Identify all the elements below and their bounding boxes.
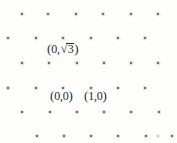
lattice-dot [130,62,132,64]
radical-vinculum [66,43,74,44]
lattice-dot [157,135,159,137]
lattice-dot [76,111,78,113]
lattice-dot [48,62,50,64]
lattice-dot [102,13,104,15]
lattice-dot [130,13,132,15]
lattice-dot [171,135,173,137]
lattice-dot [117,135,119,137]
lattice-dot [144,37,146,39]
label-close-paren: ) [74,41,78,56]
point-label-0-sqrt3: (0,√3) [47,42,79,55]
lattice-dot [144,87,146,89]
lattice-dot [35,87,37,89]
lattice-dot [158,111,160,113]
lattice-dot [157,13,159,15]
lattice-dot [117,87,119,89]
lattice-dot [7,37,9,39]
point-label-origin: (0,0) [50,89,73,102]
lattice-dot [21,62,23,64]
lattice-dot-layer [0,0,177,143]
lattice-dot [90,135,92,137]
lattice-dot [62,37,64,39]
lattice-dot [21,13,23,15]
lattice-dot [47,13,49,15]
lattice-dot [49,111,51,113]
lattice-dot [35,37,37,39]
lattice-figure: (0,√3) (0,0) (1,0) [0,0,177,143]
lattice-dot [63,135,65,137]
lattice-dot [90,37,92,39]
lattice-dot [36,135,38,137]
lattice-dot [103,111,105,113]
lattice-dot [75,13,77,15]
lattice-dot [76,62,78,64]
lattice-dot [145,135,147,137]
lattice-dot [130,111,132,113]
point-label-one-zero: (1,0) [84,89,107,102]
square-root-icon: √3 [60,43,75,55]
lattice-dot [103,62,105,64]
lattice-dot [157,62,159,64]
lattice-dot [21,111,23,113]
label-close-paren: ) [69,88,73,103]
lattice-dot [117,37,119,39]
label-close-paren: ) [103,88,107,103]
lattice-dot [7,87,9,89]
